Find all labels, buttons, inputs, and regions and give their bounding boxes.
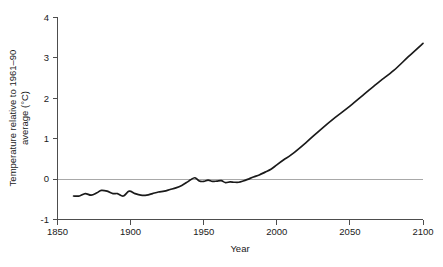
y-tick-label-3: 3 bbox=[44, 52, 49, 63]
y-axis: 4 3 2 1 0 -1 bbox=[41, 12, 58, 225]
y-tick-label-4: 4 bbox=[44, 12, 49, 23]
y-tick-label-1: 1 bbox=[44, 133, 49, 144]
x-tick-label-1850: 1850 bbox=[47, 226, 68, 237]
x-tick-label-2100: 2100 bbox=[412, 226, 433, 237]
x-tick-label-1900: 1900 bbox=[120, 226, 141, 237]
x-tick-label-2050: 2050 bbox=[339, 226, 360, 237]
caption-text bbox=[6, 261, 437, 264]
x-axis-title: Year bbox=[230, 243, 249, 254]
y-tick-label-0: 0 bbox=[44, 173, 49, 184]
temperature-series-line bbox=[74, 43, 423, 196]
caption-fragment bbox=[6, 261, 437, 264]
y-tick-label-neg1: -1 bbox=[41, 214, 49, 225]
y-axis-title: Temperature relative to 1961–90 average … bbox=[7, 50, 30, 187]
y-tick-label-2: 2 bbox=[44, 93, 49, 104]
chart-figure: 4 3 2 1 0 -1 Temperature relative to 196… bbox=[0, 0, 443, 267]
y-axis-title-line2: average (°C) bbox=[19, 91, 30, 145]
x-tick-label-2000: 2000 bbox=[266, 226, 287, 237]
x-axis: 1850 1900 1950 2000 2050 2100 Year bbox=[47, 220, 434, 255]
temperature-projection-line-chart: 4 3 2 1 0 -1 Temperature relative to 196… bbox=[0, 0, 443, 267]
y-axis-title-line1: Temperature relative to 1961–90 bbox=[7, 50, 18, 187]
x-tick-label-1950: 1950 bbox=[193, 226, 214, 237]
